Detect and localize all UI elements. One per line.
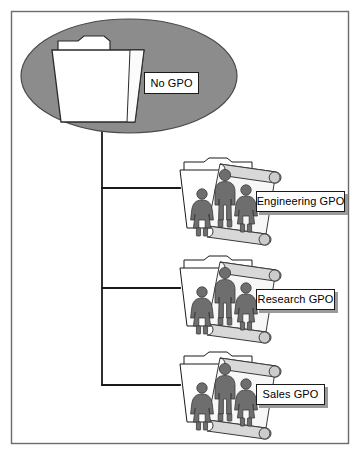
- gpo-label-engineering: Engineering GPO: [256, 191, 345, 212]
- diagram-canvas: No GPO Engineering GPO Research GPO Sale…: [0, 0, 362, 455]
- gpo-label-research: Research GPO: [256, 289, 335, 310]
- root-node-label: No GPO: [144, 72, 199, 94]
- gpo-label-sales: Sales GPO: [256, 384, 325, 405]
